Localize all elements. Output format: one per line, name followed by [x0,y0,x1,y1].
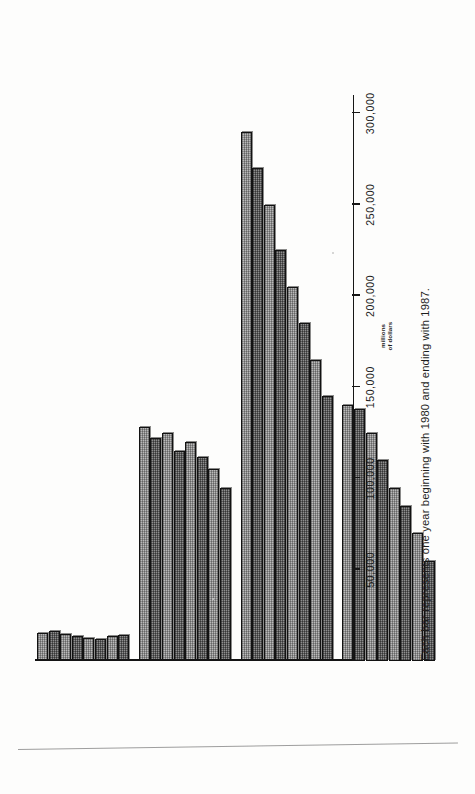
bar [60,634,71,661]
bar [48,631,59,661]
bar [106,636,117,661]
bar [377,460,388,661]
bar [342,405,353,661]
bar [310,360,321,661]
axis-tick [352,294,360,295]
axis-tick [352,660,360,661]
axis-unit-line2: of dollars [386,322,393,351]
bar [185,442,196,661]
bar [400,506,411,661]
value-axis: 50,000100,000150,000200,000250,000300,00… [353,95,354,661]
bar [275,250,286,661]
axis-tick-label: 50,000 [364,552,376,588]
rotated-figure-wrapper: 50,000100,000150,000200,000250,000300,00… [27,53,457,753]
scan-speck [212,598,214,600]
figure-caption: Each bar represents one year beginning w… [419,288,431,661]
axis-tick [352,386,360,387]
axis-tick-label: 300,000 [364,92,376,134]
bar-chart-figure: 50,000100,000150,000200,000250,000300,00… [27,53,457,753]
bar [388,488,399,661]
bar [162,433,173,661]
bar [83,638,94,661]
bar [71,636,82,661]
bar [118,635,129,661]
axis-tick-label: 100,000 [364,457,376,499]
value-axis-line [353,95,354,661]
plot-area [35,95,353,661]
bar [287,287,298,661]
bar [263,205,274,661]
axis-tick [352,112,360,113]
bar [196,457,207,661]
scan-speck [332,252,334,254]
axis-tick-label: 200,000 [364,275,376,317]
bar [173,451,184,661]
bar [321,396,332,661]
bar [252,168,263,661]
axis-tick-label: 150,000 [364,366,376,408]
axis-tick [352,568,360,569]
bar [37,633,48,661]
bar [138,427,149,661]
bar [95,639,106,661]
scanned-page: 50,000100,000150,000200,000250,000300,00… [0,0,475,794]
bar [240,132,251,661]
bar [220,488,231,661]
axis-tick [352,203,360,204]
axis-tick-label: 250,000 [364,183,376,225]
axis-unit-label: millions of dollars [379,322,393,351]
bar [298,323,309,661]
axis-unit-line1: millions [379,322,386,351]
bar [354,409,365,661]
bar [150,438,161,661]
bar [208,469,219,661]
axis-tick [352,477,360,478]
category-baseline [35,659,354,661]
